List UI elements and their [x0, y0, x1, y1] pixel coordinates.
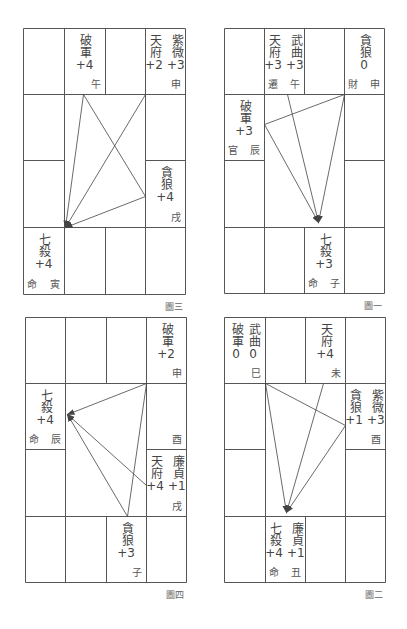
star-brightness: +4 — [35, 257, 53, 271]
star-group: 貪狼+1紫微+3 — [345, 389, 385, 427]
star-group: 七殺+4廉貞+1 — [265, 522, 305, 560]
earthly-branch-label: 子 — [330, 275, 340, 290]
star-brightness: +3 — [367, 413, 385, 427]
star: 天府+2 — [145, 34, 163, 72]
star: 貪狼+4 — [156, 166, 174, 204]
chart-fig4: 破軍+2申七殺+4命辰酉天府+4廉貞+1戌貪狼+3子 — [25, 317, 186, 582]
palace-cell: 七殺+4命寅 — [23, 227, 64, 294]
star: 紫微+3 — [167, 34, 185, 72]
star-name: 紫微 — [169, 34, 182, 58]
palace-cell: 貪狼0財申 — [344, 28, 384, 94]
influence-line — [66, 95, 146, 228]
earthly-branch-label: 午 — [91, 76, 101, 91]
star: 七殺+4 — [35, 233, 53, 271]
star-brightness: +2 — [145, 58, 163, 72]
star: 廉貞+1 — [168, 455, 186, 493]
star-brightness: +1 — [345, 413, 363, 427]
star-brightness: +1 — [168, 479, 186, 493]
earthly-branch-label: 未 — [331, 365, 341, 380]
influence-line — [266, 384, 287, 513]
palace-label: 財 — [348, 76, 358, 91]
star-name: 紫微 — [369, 389, 382, 413]
star-name: 破軍 — [159, 323, 172, 347]
star-brightness: +4 — [156, 190, 174, 204]
star-name: 破軍 — [78, 34, 91, 58]
palace-cell: 七殺+3命子 — [304, 227, 344, 293]
star-name: 天府 — [267, 34, 280, 58]
palace-cell: 天府+4未 — [305, 317, 345, 383]
figure-caption: 圖二 — [365, 588, 383, 601]
star: 武曲0 — [247, 323, 260, 361]
star-name: 貪狼 — [348, 389, 361, 413]
star: 破軍+4 — [76, 34, 94, 72]
star: 破軍+2 — [157, 323, 175, 361]
earthly-branch-label: 酉 — [172, 431, 182, 446]
star-group: 七殺+3 — [304, 233, 344, 271]
palace-cell: 天府+3武曲+3遷午 — [264, 28, 304, 94]
influence-line — [66, 95, 84, 228]
palace-cell: 七殺+4廉貞+1命丑 — [265, 516, 305, 582]
palace-label: 命 — [269, 564, 279, 579]
star-brightness: +4 — [265, 546, 283, 560]
palace-label: 命 — [29, 431, 39, 446]
star-brightness: +3 — [286, 58, 304, 72]
chart-fig3: 破軍+4午天府+2紫微+3申貪狼+4戌七殺+4命寅 — [23, 28, 185, 294]
star-name: 貪狼 — [158, 166, 171, 190]
palace-label: 遷 — [268, 76, 278, 91]
palace-cell: 破軍+3官辰 — [224, 94, 264, 160]
star: 天府+4 — [316, 323, 334, 361]
star: 七殺+3 — [315, 233, 333, 271]
star-name: 貪狼 — [119, 522, 132, 546]
star-name: 七殺 — [38, 389, 51, 413]
star-brightness: +3 — [235, 124, 253, 138]
star-name: 七殺 — [37, 233, 50, 257]
palace-cell: 天府+2紫微+3申 — [145, 28, 185, 94]
palace-cell: 破軍+2申 — [146, 317, 186, 383]
figure-caption: 圖四 — [166, 588, 184, 601]
star-brightness: +2 — [157, 347, 175, 361]
earthly-branch-label: 丑 — [291, 564, 301, 579]
star: 貪狼+1 — [345, 389, 363, 427]
star-brightness: 0 — [232, 347, 240, 361]
earthly-branch-label: 戌 — [172, 498, 182, 513]
chart-fig1: 天府+3武曲+3遷午貪狼0財申破軍+3官辰七殺+3命子 — [224, 28, 384, 293]
palace-cell: 貪狼+1紫微+3酉 — [345, 383, 385, 449]
figure-caption: 圖一 — [364, 299, 382, 312]
palace-cell: 破軍0武曲0巳 — [224, 317, 265, 383]
star-brightness: +3 — [167, 58, 185, 72]
star: 貪狼0 — [358, 34, 371, 72]
earthly-branch-label: 申 — [370, 76, 380, 91]
star-name: 武曲 — [288, 34, 301, 58]
palace-label: 官 — [228, 142, 238, 157]
star-name: 天府 — [318, 323, 331, 347]
figure-caption: 圖三 — [165, 300, 183, 313]
star-brightness: +4 — [146, 479, 164, 493]
star-brightness: +4 — [76, 58, 94, 72]
star-brightness: +4 — [36, 413, 54, 427]
earthly-branch-label: 申 — [172, 365, 182, 380]
star-group: 天府+3武曲+3 — [264, 34, 304, 72]
star-name: 天府 — [148, 34, 161, 58]
star: 紫微+3 — [367, 389, 385, 427]
earthly-branch-label: 巳 — [251, 365, 261, 380]
star: 貪狼+3 — [117, 522, 135, 560]
influence-line — [68, 415, 128, 517]
star-group: 天府+4廉貞+1 — [146, 455, 186, 493]
star-group: 七殺+4 — [25, 389, 65, 427]
palace-cell: 貪狼+3子 — [106, 516, 146, 582]
star-brightness: 0 — [360, 58, 368, 72]
influence-line — [288, 95, 319, 223]
palace-label: 命 — [308, 275, 318, 290]
palace-cell: 破軍+4午 — [64, 28, 105, 94]
influence-line — [68, 415, 147, 486]
star-brightness: +4 — [316, 347, 334, 361]
star-group: 貪狼+3 — [106, 522, 146, 560]
earthly-branch-label: 辰 — [51, 431, 61, 446]
star-name: 七殺 — [268, 522, 281, 546]
star-group: 破軍0武曲0 — [224, 323, 265, 361]
star-name: 武曲 — [247, 323, 260, 347]
star: 破軍+3 — [235, 100, 253, 138]
earthly-branch-label: 申 — [171, 76, 181, 91]
influence-line — [319, 95, 345, 223]
star: 廉貞+1 — [287, 522, 305, 560]
